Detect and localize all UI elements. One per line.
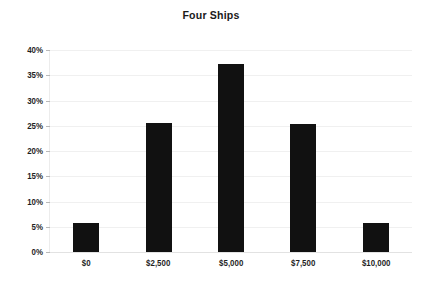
y-axis-tick [46, 75, 50, 76]
y-axis-tick [46, 227, 50, 228]
chart-title: Four Ships [17, 9, 405, 21]
bar-chart: Four Ships 40%35%30%25%20%15%10%5%0% $0$… [0, 0, 422, 289]
y-axis-tick [46, 101, 50, 102]
x-axis-labels: $0$2,500$5,000$7,500$10,000 [50, 258, 412, 278]
y-axis-tick-label: 30% [6, 96, 43, 106]
plot-area [50, 50, 412, 252]
x-axis-tick-label: $7,500 [270, 258, 337, 268]
gridline [50, 50, 412, 51]
y-axis-tick [46, 176, 50, 177]
x-axis-tick-label: $5,000 [197, 258, 264, 268]
bar [73, 223, 99, 252]
bar [363, 223, 389, 252]
bar [146, 123, 172, 252]
y-axis-tick [46, 151, 50, 152]
x-axis-tick-label: $2,500 [125, 258, 192, 268]
y-axis-tick-label: 25% [6, 121, 43, 131]
y-axis-tick-label: 20% [6, 146, 43, 156]
y-axis-tick-label: 5% [6, 222, 43, 232]
bar [218, 64, 244, 252]
y-axis-tick-label: 15% [6, 171, 43, 181]
y-axis-tick [46, 126, 50, 127]
y-axis-labels: 40%35%30%25%20%15%10%5%0% [0, 0, 43, 289]
x-axis-tick-label: $10,000 [342, 258, 409, 268]
y-axis-tick-label: 35% [6, 70, 43, 80]
y-axis-tick-label: 0% [6, 247, 43, 257]
y-axis-tick [46, 252, 50, 253]
y-axis-tick [46, 50, 50, 51]
x-axis-tick-label: $0 [53, 258, 120, 268]
y-axis-tick-label: 40% [6, 45, 43, 55]
y-axis-tick-label: 10% [6, 197, 43, 207]
gridline [50, 252, 412, 253]
y-axis-tick [46, 202, 50, 203]
bar [290, 124, 316, 252]
